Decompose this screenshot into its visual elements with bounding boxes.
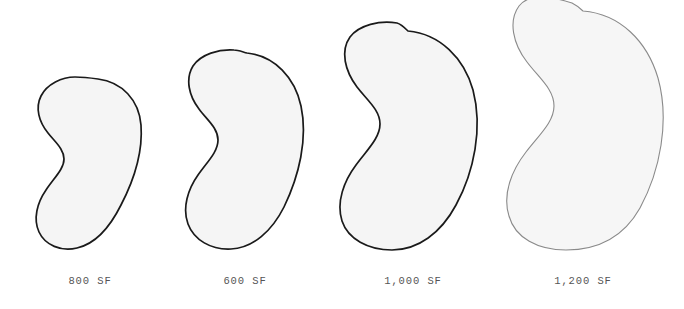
shape-label-2: 600 SF bbox=[223, 275, 266, 287]
shape-comparison-diagram bbox=[0, 0, 684, 309]
bean-shape-4[interactable] bbox=[507, 0, 663, 250]
bean-shape-3[interactable] bbox=[340, 22, 477, 250]
shape-group bbox=[36, 0, 663, 250]
shape-label-3: 1,000 SF bbox=[384, 275, 442, 287]
shape-label-1: 800 SF bbox=[68, 275, 111, 287]
shape-label-4: 1,200 SF bbox=[554, 275, 612, 287]
bean-shape-1[interactable] bbox=[36, 77, 141, 249]
bean-shape-2[interactable] bbox=[186, 50, 304, 249]
